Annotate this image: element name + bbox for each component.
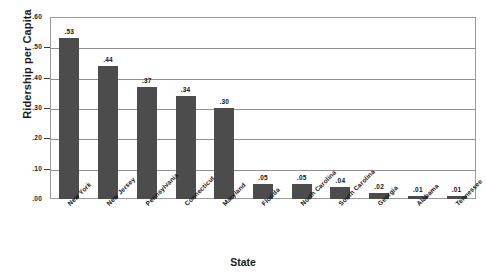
bar: [98, 66, 118, 199]
x-axis-title: State: [0, 256, 486, 268]
bar-value-label: .53: [50, 28, 89, 35]
bar-group: .05: [282, 17, 321, 199]
y-tick-label: .50: [0, 43, 42, 50]
bar-group: .04: [321, 17, 360, 199]
bar-group: .30: [205, 17, 244, 199]
bar-value-label: .05: [282, 174, 321, 181]
bar-value-label: .37: [127, 77, 166, 84]
bar: [214, 108, 234, 199]
bar: [137, 87, 157, 199]
bar-value-label: .05: [244, 174, 283, 181]
bar-group: .05: [244, 17, 283, 199]
bar-value-label: .30: [205, 98, 244, 105]
bar: [176, 96, 196, 199]
y-tick-label: .20: [0, 134, 42, 141]
bar-group: .01: [437, 17, 476, 199]
bar-group: .01: [399, 17, 438, 199]
bar-value-label: .44: [89, 56, 128, 63]
y-tick-label: .30: [0, 104, 42, 111]
x-axis-tick-labels: New YorkNew JerseyPennsylvaniaConnecticu…: [50, 200, 476, 252]
bar-group: .53: [50, 17, 89, 199]
bar-group: .34: [166, 17, 205, 199]
y-tick-label: .60: [0, 13, 42, 20]
y-tick-label: .40: [0, 74, 42, 81]
bar-group: .37: [127, 17, 166, 199]
bar-chart: Ridership per Capita .00.10.20.30.40.50.…: [0, 0, 486, 274]
bar-value-label: .34: [166, 86, 205, 93]
bar: [59, 38, 79, 199]
y-tick-label: .00: [0, 195, 42, 202]
y-tick-label: .10: [0, 165, 42, 172]
bar-group: .44: [89, 17, 128, 199]
bars-layer: .53.44.37.34.30.05.05.04.02.01.01: [50, 17, 476, 199]
